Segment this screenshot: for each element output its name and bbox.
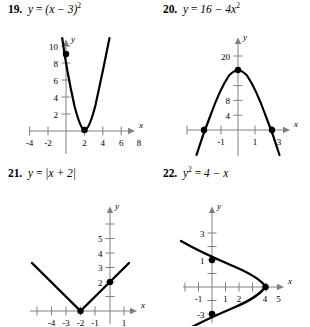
y-tick-labels: 3 1 -3 [197,229,205,320]
problem-21: 21. y = |x + 2| [0,164,155,327]
x-tick-label: -2 [44,138,52,148]
x-axis-label: x [293,119,298,129]
point-0-9 [63,51,69,57]
eq-lhs: y [183,3,188,15]
point-neg2-0 [77,308,83,314]
problem-22-equation: y2 = 4 − x [183,167,228,179]
y-tick-labels: 10 8 6 4 2 [49,42,59,120]
y-tick-label: 5 [98,234,103,244]
axis-lines [29,40,135,155]
problem-21-number: 21. [8,167,22,179]
x-tick-label: 4 [101,138,106,148]
x-tick-label: 2 [82,138,87,148]
y-tick-label: 3 [200,229,205,239]
y-tick-label: 2 [98,278,103,288]
x-tick-label: 1 [122,318,127,326]
problem-19: 19. y = (x − 3)2 [0,0,155,163]
problem-20-number: 20. [163,3,177,15]
x-axis-label: x [287,276,292,286]
problem-21-equation: y = |x + 2| [28,167,76,179]
parabola-curve [62,38,109,131]
problem-21-heading: 21. y = |x + 2| [8,167,76,179]
eq-sign: = [191,3,198,15]
problem-21-graph: -4 -3 -2 -1 1 5 4 3 2 x y [0,186,155,326]
eq-sign: = [36,3,43,15]
problem-19-equation: y = (x − 3)2 [28,3,81,15]
eq-exponent: 2 [77,1,81,10]
x-tick-label: -4 [48,318,56,326]
eq-sign: = [36,167,43,179]
y-tick-label: 6 [54,76,59,86]
eq-sign: = [195,167,202,179]
x-tick-label: 4 [263,294,268,304]
eq-lhs: y [28,3,33,15]
exercise-page: 19. y = (x − 3)2 [0,0,310,327]
x-tick-labels: -1 1 2 4 5 [195,294,282,304]
eq-rhs: (x − 3) [45,3,77,15]
point-neg2-0 [201,127,207,133]
eq-lhs: y [28,167,33,179]
problem-20-heading: 20. y = 16 − 4x2 [163,3,240,15]
y-axis-label: y [216,201,221,211]
point-4-0 [262,284,268,290]
point-0-neg2 [209,311,215,317]
problem-22: 22. y2 = 4 − x [155,164,310,327]
x-tick-label: -1 [195,294,203,304]
x-tick-label: -1 [217,137,225,147]
point-0-2 [107,279,113,285]
point-0-16 [235,67,241,73]
y-tick-label: 4 [226,111,231,121]
y-tick-labels: 5 4 3 2 [98,234,103,288]
y-tick-label: 8 [226,96,231,106]
y-axis-label: y [70,34,75,44]
x-tick-labels: -1 1 3 [217,137,282,147]
x-tick-label: 1 [223,294,228,304]
y-tick-label: 8 [54,59,59,69]
problem-20-graph: -1 1 3 20 8 4 x y [155,22,310,162]
y-axis-label: y [242,32,247,42]
x-tick-label: 8 [137,138,142,148]
point-2-0 [269,127,275,133]
graph-21-svg: -4 -3 -2 -1 1 5 4 3 2 x y [0,186,155,326]
y-tick-label: 20 [221,52,231,62]
eq-exponent: 2 [236,1,240,10]
problem-22-graph: -1 1 2 4 5 3 1 -3 x y [155,186,310,326]
x-tick-label: -3 [62,318,70,326]
x-tick-labels: -4 -2 2 4 6 8 [26,138,142,148]
problem-20-equation: y = 16 − 4x2 [183,3,240,15]
axis-lines [183,207,284,324]
problem-19-graph: -4 -2 2 4 6 8 10 8 6 4 2 x y [0,22,155,162]
y-tick-label: 3 [98,263,103,273]
graph-22-svg: -1 1 2 4 5 3 1 -3 x y [155,186,310,326]
eq-rhs: 4 − x [204,167,228,179]
problem-19-heading: 19. y = (x − 3)2 [8,3,81,15]
y-tick-label: 2 [54,110,59,120]
x-axis-label: x [138,120,143,130]
x-tick-label: 2 [237,294,242,304]
eq-exponent: 2 [188,165,192,174]
point-3-0 [81,127,87,133]
x-tick-label: -1 [91,318,99,326]
eq-rhs: 16 − 4x [200,3,236,15]
x-tick-labels: -4 -3 -2 -1 1 [48,318,127,326]
eq-rhs: |x + 2| [45,167,76,179]
x-tick-label: 1 [253,137,258,147]
x-tick-label: -2 [77,318,85,326]
point-0-2 [209,257,215,263]
y-tick-label: 4 [98,249,103,259]
problem-22-number: 22. [163,167,177,179]
y-tick-label: -3 [197,310,205,320]
y-tick-label: 4 [54,93,59,103]
y-axis-label: y [114,201,119,211]
problem-19-number: 19. [8,3,22,15]
x-axis-label: x [140,300,145,310]
y-tick-label: 1 [200,256,205,266]
problem-22-heading: 22. y2 = 4 − x [163,167,228,179]
absolute-value-graph [32,263,129,311]
graph-20-svg: -1 1 3 20 8 4 x y [155,22,310,162]
graph-19-svg: -4 -2 2 4 6 8 10 8 6 4 2 x y [0,22,155,162]
problem-20: 20. y = 16 − 4x2 [155,0,310,163]
x-tick-label: 5 [276,294,281,304]
x-tick-label: 6 [119,138,124,148]
x-tick-label: 3 [277,137,282,147]
